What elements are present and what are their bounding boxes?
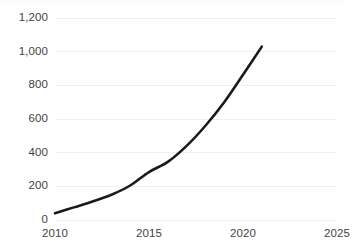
x-axis-tick-label: 2015 <box>119 228 179 240</box>
x-axis-tick-label: 2025 <box>307 228 354 240</box>
x-axis-tick-label: 2020 <box>213 228 273 240</box>
x-axis-tick-label: 2010 <box>25 228 85 240</box>
